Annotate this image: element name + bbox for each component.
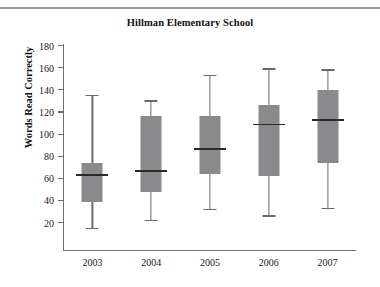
box-plot-2007 (303, 45, 353, 250)
y-tick-label: 40 (44, 195, 54, 206)
upper-whisker (151, 100, 152, 115)
lower-whisker-cap (145, 220, 158, 221)
lower-whisker (92, 202, 93, 227)
y-tick-label: 120 (39, 106, 54, 117)
x-tick-label-2003: 2003 (82, 257, 102, 268)
iqr-box (317, 90, 338, 163)
plot-area (63, 45, 357, 250)
chart-title: Hillman Elementary School (0, 17, 380, 28)
box-plot-2003 (67, 45, 117, 250)
y-tick-label: 100 (39, 129, 54, 140)
x-tick-label-2005: 2005 (200, 257, 220, 268)
lower-whisker (268, 176, 269, 216)
upper-whisker-cap (86, 95, 99, 96)
lower-whisker (151, 192, 152, 220)
chart-page: Hillman Elementary School Words Read Cor… (0, 0, 380, 287)
median-line (253, 124, 285, 126)
iqr-box (200, 116, 221, 175)
box-plot-2006 (244, 45, 294, 250)
iqr-box (258, 105, 279, 176)
upper-whisker (327, 69, 328, 90)
box-plot-2004 (126, 45, 176, 250)
y-tick-label: 80 (44, 151, 54, 162)
page-top-divider (0, 7, 380, 9)
x-tick-label-2004: 2004 (141, 257, 161, 268)
lower-whisker-cap (86, 228, 99, 229)
y-tick-label: 60 (44, 173, 54, 184)
median-line (76, 174, 108, 176)
lower-whisker (209, 174, 210, 208)
upper-whisker (209, 75, 210, 116)
iqr-box (82, 163, 103, 202)
lower-whisker-cap (262, 215, 275, 216)
upper-whisker-cap (145, 100, 158, 101)
upper-whisker (268, 68, 269, 105)
lower-whisker-cap (321, 208, 334, 209)
y-tick-label: 140 (39, 84, 54, 95)
iqr-box (141, 116, 162, 192)
median-line (312, 119, 344, 121)
lower-whisker (327, 163, 328, 207)
y-tick-label: 160 (39, 62, 54, 73)
median-line (135, 170, 167, 172)
x-tick-label-2007: 2007 (318, 257, 338, 268)
median-line (194, 148, 226, 150)
upper-whisker-cap (262, 68, 275, 69)
y-axis-title: Words Read Correctly (23, 18, 34, 178)
y-tick-label: 180 (39, 40, 54, 51)
box-plot-2005 (185, 45, 235, 250)
y-tick-label: 20 (44, 217, 54, 228)
x-axis-line (63, 250, 356, 251)
upper-whisker-cap (204, 75, 217, 76)
upper-whisker-cap (321, 69, 334, 70)
x-tick-label-2006: 2006 (259, 257, 279, 268)
lower-whisker-cap (204, 209, 217, 210)
upper-whisker (92, 95, 93, 164)
